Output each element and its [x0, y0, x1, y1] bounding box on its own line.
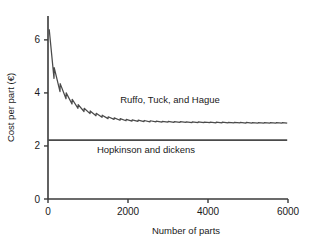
x-axis-title: Number of parts: [152, 225, 220, 236]
y-tick-label: 2: [34, 140, 40, 151]
x-tick-label: 2000: [117, 206, 140, 217]
x-tick-label: 0: [45, 206, 51, 217]
chart-canvas: 0246 0200040006000 Ruffo, Tuck, and Hagu…: [0, 0, 310, 250]
y-axis-title: Cost per part (€): [5, 73, 16, 142]
y-tick-label: 6: [34, 34, 40, 45]
x-axis: 0200040006000: [45, 199, 299, 217]
y-axis: 0246: [34, 16, 48, 205]
series-annotation: Hopkinson and dickens: [97, 144, 195, 155]
series-line-1: [49, 29, 287, 123]
x-tick-label: 4000: [197, 206, 220, 217]
data-series-group: [48, 29, 287, 140]
y-axis-ticks: 0246: [34, 34, 48, 204]
series-annotation: Ruffo, Tuck, and Hague: [120, 94, 220, 105]
x-tick-label: 6000: [277, 206, 300, 217]
y-tick-label: 0: [34, 194, 40, 205]
series-annotations: Ruffo, Tuck, and HagueHopkinson and dick…: [97, 94, 220, 155]
cost-per-part-chart: 0246 0200040006000 Ruffo, Tuck, and Hagu…: [0, 0, 310, 250]
y-tick-label: 4: [34, 87, 40, 98]
x-axis-ticks: 0200040006000: [45, 199, 299, 217]
